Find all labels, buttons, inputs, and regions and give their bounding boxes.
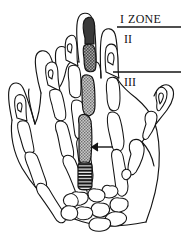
zone-label-three: III [124, 76, 136, 88]
bone-middle-metacarpal-shaded [79, 114, 92, 165]
bone-middle-proximal-phalanx-shaded [81, 75, 95, 116]
bone-middle-metacarpal-base-striped [78, 162, 92, 190]
bone-little-middle-phalanx [18, 121, 34, 154]
zone-label-one-word: ZONE [128, 12, 161, 26]
bone-thumb-sesamoid [122, 169, 131, 179]
bone-carpal-scaphoid [110, 198, 128, 212]
bone-carpal-pisiform [61, 206, 78, 220]
bone-little-metacarpal [37, 183, 66, 223]
zone-label-two: II [124, 33, 132, 45]
bone-second-middle-phalanx [68, 65, 81, 98]
bone-middle-middle-phalanx-shaded [83, 44, 96, 72]
hand-skeleton-illustration [0, 0, 183, 239]
pointer-arrow [92, 143, 113, 151]
zone-label-one-roman: I [120, 12, 125, 26]
bone-ring-distal-detail [48, 70, 53, 79]
annotation-layer [92, 27, 181, 151]
bone-index-middle-phalanx [106, 77, 120, 110]
bone-carpal-radius-head [89, 218, 111, 231]
bone-thumb-proximal-phalanx [143, 111, 157, 139]
bone-thumb-metacarpal [128, 139, 144, 174]
bone-second-distal-detail [67, 44, 72, 53]
hand-zone-figure: IZONE II III [0, 0, 183, 239]
bone-middle-distal-phalanx-shaded [83, 17, 94, 44]
bone-ring-proximal-phalanx [56, 121, 74, 160]
bone-ring-middle-phalanx [50, 89, 66, 121]
zone-label-one: IZONE [120, 13, 161, 25]
bone-carpal-trapezoid [88, 189, 105, 202]
bone-index-proximal-phalanx [107, 112, 124, 152]
bone-carpal-hamate [63, 194, 78, 207]
bone-little-distal-detail [17, 103, 22, 112]
